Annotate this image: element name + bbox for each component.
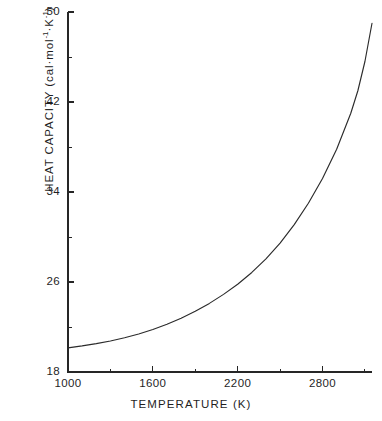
axis-spines [68, 12, 372, 372]
y-axis-title: HEAT CAPACITY (cal·mol-1·K-1) [35, 0, 60, 249]
x-axis-title: TEMPERATURE (K) [0, 398, 382, 410]
x-tick-label: 2200 [208, 378, 268, 390]
data-curve-0 [68, 23, 372, 348]
y-axis-title-middle: ·K [43, 18, 55, 31]
axes-group [68, 12, 372, 372]
chart-figure: 1826344250 1000160022002800 TEMPERATURE … [0, 0, 382, 421]
x-tick-label: 2800 [293, 378, 353, 390]
y-axis-title-exponent-1: -1 [41, 31, 50, 38]
y-axis-major-ticks [68, 12, 74, 372]
y-axis-title-suffix: ) [43, 6, 55, 11]
y-axis-title-container: HEAT CAPACITY (cal·mol-1·K-1) [35, 0, 57, 249]
data-series-group [68, 23, 372, 348]
y-tick-label: 18 [30, 366, 60, 378]
x-tick-label: 1600 [123, 378, 183, 390]
y-axis-title-exponent-2: -1 [41, 11, 50, 18]
y-axis-title-prefix: HEAT CAPACITY (cal·mol [43, 39, 55, 192]
y-tick-label: 26 [30, 276, 60, 288]
x-tick-label: 1000 [38, 378, 98, 390]
